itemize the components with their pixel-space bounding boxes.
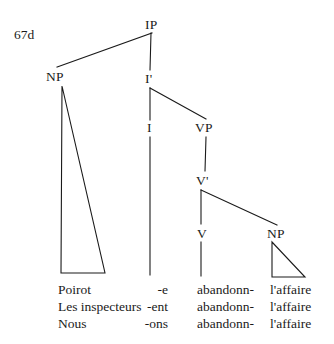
np-object-triangle (272, 242, 305, 277)
np-subject-triangle (61, 86, 105, 273)
terminal-inflection: -ent (108, 298, 168, 315)
terminal-subject: Poirot (58, 281, 91, 298)
terminal-object: l'affaire (270, 315, 311, 332)
branch-ibar-to-vp (150, 88, 206, 119)
branch-vbar-to-np (201, 190, 277, 225)
node-np-object: NP (267, 227, 285, 241)
terminal-inflection: -ons (108, 315, 168, 332)
example-number: 67d (14, 28, 34, 42)
terminal-row: Poirot -e abandonn- l'affaire (0, 281, 334, 298)
syntax-tree-figure: 67d IP NP I' I VP V' V NP Poirot -e aban… (0, 0, 334, 344)
terminal-subject: Nous (58, 315, 87, 332)
terminal-row: Nous -ons abandonn- l'affaire (0, 315, 334, 332)
node-v-head: V (197, 227, 207, 241)
terminal-row: Les inspecteurs -ent abandonn- l'affaire (0, 298, 334, 315)
branch-ip-to-ibar (150, 33, 151, 70)
node-i-bar: I' (145, 72, 152, 86)
terminal-verb: abandonn- (197, 315, 254, 332)
branch-ip-to-np (57, 33, 152, 67)
node-v-bar: V' (196, 174, 209, 188)
terminal-verb: abandonn- (197, 298, 254, 315)
terminal-object: l'affaire (270, 298, 311, 315)
terminal-object: l'affaire (270, 281, 311, 298)
terminal-verb: abandonn- (197, 281, 254, 298)
node-vp: VP (195, 121, 213, 135)
terminal-inflection: -e (108, 281, 168, 298)
branch-vp-to-vbar (205, 137, 206, 171)
node-i-head: I (147, 121, 152, 135)
node-ip: IP (145, 18, 157, 32)
node-np-subject: NP (46, 70, 64, 84)
